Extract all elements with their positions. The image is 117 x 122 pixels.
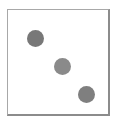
- scatter-dot: [78, 86, 95, 103]
- scatter-dot: [54, 58, 71, 75]
- screenshot-root: [0, 0, 117, 122]
- scatter-plot-area: [8, 10, 108, 114]
- scatter-dot: [27, 30, 44, 47]
- dot-panel: [7, 9, 110, 116]
